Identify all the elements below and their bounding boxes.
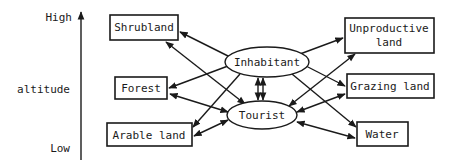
node-shrubland: Shrubland — [110, 15, 178, 40]
edge-inhabitant-shrubland — [180, 32, 232, 58]
edge-tourist-arable — [194, 120, 228, 136]
edge-inhabitant-forest — [169, 66, 228, 88]
node-arable-land: Arable land — [107, 123, 192, 146]
node-unproductive-label-2: land — [376, 36, 403, 49]
node-water-label: Water — [365, 128, 398, 141]
node-grazing-label: Grazing land — [350, 80, 429, 93]
node-water: Water — [357, 122, 408, 146]
node-unproductive-label-1: Unproductive — [349, 22, 428, 35]
land-use-diagram: High altitude Low Shrubland Forest Arabl… — [0, 0, 459, 164]
axis-label-high: High — [46, 11, 73, 24]
edge-tourist-water — [297, 122, 355, 138]
axis-label-altitude: altitude — [17, 83, 70, 96]
axis-label-low: Low — [50, 142, 70, 155]
edge-inhabitant-tourist — [258, 78, 263, 100]
node-inhabitant: Inhabitant — [225, 47, 309, 77]
altitude-axis: High altitude Low — [17, 11, 81, 160]
node-grazing-land: Grazing land — [347, 74, 434, 98]
node-inhabitant-label: Inhabitant — [234, 56, 300, 69]
node-arable-label: Arable land — [113, 129, 186, 142]
node-tourist-label: Tourist — [239, 109, 285, 122]
edge-inhabitant-unproductive — [300, 38, 343, 54]
edge-inhabitant-grazing — [306, 66, 345, 86]
node-tourist: Tourist — [227, 101, 297, 129]
node-forest: Forest — [115, 77, 167, 99]
edge-tourist-shrubland — [166, 42, 245, 104]
node-shrubland-label: Shrubland — [114, 21, 174, 34]
node-unproductive-land: Unproductive land — [345, 18, 434, 53]
node-forest-label: Forest — [121, 82, 161, 95]
edge-tourist-grazing — [297, 94, 345, 112]
